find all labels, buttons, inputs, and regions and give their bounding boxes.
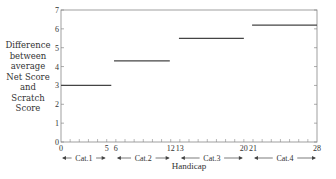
category-label: Cat.2: [135, 154, 152, 163]
arrowhead-left-icon: [62, 156, 66, 160]
x-tick-label: 28: [313, 144, 321, 153]
y-tick-label: 6: [55, 25, 59, 34]
x-tick-label: 13: [176, 144, 184, 153]
x-tick-label: 0: [59, 144, 63, 153]
category-label: Cat.1: [75, 154, 92, 163]
x-tick-label: 21: [249, 144, 257, 153]
arrowhead-right-icon: [102, 156, 106, 160]
x-tick-label: 6: [114, 144, 118, 153]
arrowhead-right-icon: [312, 156, 316, 160]
x-ticks: 0561213202128: [59, 139, 321, 153]
x-tick-label: 5: [105, 144, 109, 153]
arrowhead-right-icon: [166, 156, 170, 160]
category-label: Cat.4: [276, 154, 293, 163]
arrowhead-left-icon: [254, 156, 258, 160]
arrowhead-right-icon: [239, 156, 243, 160]
y-ticks: 01234567: [55, 6, 317, 147]
x-tick-label: 12: [167, 144, 175, 153]
y-tick-label: 5: [55, 44, 59, 53]
y-tick-label: 4: [55, 63, 59, 72]
y-tick-label: 3: [55, 81, 59, 90]
series: [61, 25, 317, 85]
chart: 01234567 0561213202128 Cat.1Cat.2Cat.3Ca…: [0, 0, 336, 179]
arrowhead-left-icon: [117, 156, 121, 160]
y-tick-label: 7: [55, 6, 59, 15]
arrowhead-left-icon: [181, 156, 185, 160]
y-tick-label: 2: [55, 100, 59, 109]
axes: [61, 10, 317, 142]
x-tick-label: 20: [240, 144, 248, 153]
y-tick-label: 1: [55, 119, 59, 128]
x-axis-label: Handicap: [172, 161, 207, 171]
plot-frame: [61, 10, 317, 142]
